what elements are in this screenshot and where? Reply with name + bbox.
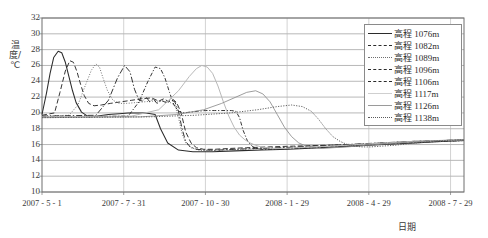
legend-line-swatch — [367, 64, 393, 74]
legend-item-1106m[interactable]: 高程 1106m — [367, 75, 459, 87]
legend-label: 高程 1138m — [393, 111, 439, 124]
legend-item-1096m[interactable]: 高程 1096m — [367, 63, 459, 75]
temperature-elevation-line-chart: 温度/℃ 101214161820222426283032 2007 - 5 -… — [0, 0, 488, 238]
legend-line-swatch — [367, 112, 393, 122]
legend-line-swatch — [367, 76, 393, 86]
legend: 高程 1076m高程 1082m高程 1089m高程 1096m高程 1106m… — [364, 24, 462, 126]
legend-item-1089m[interactable]: 高程 1089m — [367, 51, 459, 63]
legend-line-swatch — [367, 100, 393, 110]
legend-line-swatch — [367, 28, 393, 38]
legend-line-swatch — [367, 40, 393, 50]
legend-item-1138m[interactable]: 高程 1138m — [367, 111, 459, 123]
legend-item-1126m[interactable]: 高程 1126m — [367, 99, 459, 111]
legend-item-1117m[interactable]: 高程 1117m — [367, 87, 459, 99]
legend-item-1076m[interactable]: 高程 1076m — [367, 27, 459, 39]
legend-line-swatch — [367, 52, 393, 62]
legend-line-swatch — [367, 88, 393, 98]
legend-item-1082m[interactable]: 高程 1082m — [367, 39, 459, 51]
